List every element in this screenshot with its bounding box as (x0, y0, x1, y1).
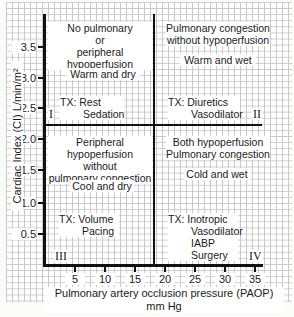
y-tick-label: 3.5 (12, 41, 36, 53)
x-tick (104, 266, 106, 272)
x-tick (164, 266, 166, 272)
quadrant-4-profile: Cold and wet (184, 168, 250, 180)
y-tick-label: 0.5 (12, 228, 36, 240)
quadrant-3-treatment: TX: Volume Pacing (59, 213, 119, 237)
x-tick-label: 25 (185, 273, 205, 285)
x-tick (74, 266, 76, 272)
quadrant-2-treatment: TX: Diuretics Vasodilator (168, 96, 240, 120)
quadrant-3-label: III (54, 250, 68, 262)
horizontal-divider-ci-2-2 (44, 124, 262, 126)
quadrant-1-heading: No pulmonary or peripheral hypoperfusion (48, 22, 152, 70)
x-tick-label: 5 (65, 273, 85, 285)
y-tick (38, 77, 44, 79)
quadrant-3-profile: Cool and dry (70, 180, 134, 192)
y-axis-title: Cardiac Index (CI) L/min/m² (11, 61, 23, 211)
x-tick-label: 10 (95, 273, 115, 285)
y-axis (43, 14, 46, 267)
quadrant-2-heading: Pulmonary congestion without hypoperfusi… (166, 22, 270, 46)
quadrant-2-label: II (252, 108, 262, 120)
x-tick (254, 266, 256, 272)
x-tick (224, 266, 226, 272)
x-tick-label: 35 (245, 273, 265, 285)
y-tick (38, 202, 44, 204)
y-tick (38, 138, 44, 140)
y-tick (38, 46, 44, 48)
x-tick-label: 15 (125, 273, 145, 285)
quadrant-1-profile: Warm and dry (66, 68, 140, 80)
quadrant-1-label: I (48, 108, 54, 120)
x-tick-label: 20 (155, 273, 175, 285)
x-axis-title: Pulmonary artery occlusion pressure (PAO… (44, 287, 284, 313)
x-tick-label: 30 (215, 273, 235, 285)
quadrant-4-heading: Both hypoperfusion Pulmonary congestion (166, 136, 270, 160)
y-tick (38, 169, 44, 171)
quadrant-3-heading: Peripheral hypoperfusion without pulmona… (48, 136, 152, 184)
y-tick (38, 107, 44, 109)
quadrant-1-treatment: TX: Rest Sedation (60, 96, 124, 120)
quadrant-4-treatment: TX: Inotropic Vasodilator IABP Surgery (168, 213, 238, 261)
y-tick (38, 233, 44, 235)
x-tick (134, 266, 136, 272)
quadrant-2-profile: Warm and wet (180, 54, 256, 66)
quadrant-4-label: IV (248, 250, 263, 262)
vertical-divider-paop-18 (153, 14, 155, 266)
x-tick (194, 266, 196, 272)
